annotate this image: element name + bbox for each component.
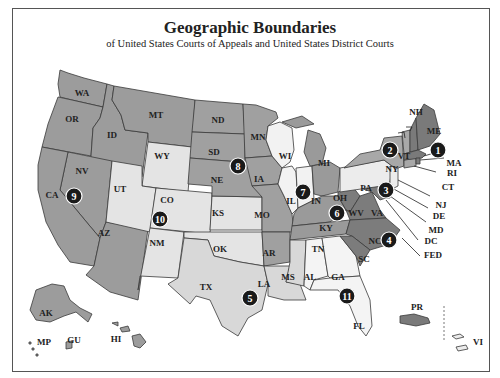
label-gu: GU [67, 335, 81, 345]
label-oh: OH [333, 193, 347, 203]
label-de: DE [433, 211, 446, 221]
label-me: ME [427, 126, 442, 136]
label-mt: MT [149, 110, 164, 120]
label-ok: OK [213, 244, 227, 254]
label-nj: NJ [436, 200, 447, 210]
label-dc: DC [425, 236, 438, 246]
label-tn: TN [312, 244, 325, 254]
label-tx: TX [200, 282, 213, 292]
circuit-badge-4[interactable]: 4 [381, 232, 397, 248]
svg-text:11: 11 [342, 291, 351, 302]
label-nc: NC [369, 236, 382, 246]
label-ut: UT [114, 184, 127, 194]
label-hi: HI [111, 334, 122, 344]
label-vi: VI [473, 337, 483, 347]
circuit-badge-1[interactable]: 1 [430, 142, 446, 158]
label-la: LA [258, 279, 271, 289]
label-mn: MN [251, 132, 266, 142]
territory-pr[interactable] [400, 314, 430, 326]
svg-text:2: 2 [388, 145, 393, 156]
label-az: AZ [98, 228, 111, 238]
svg-text:8: 8 [236, 161, 241, 172]
circuit-badge-5[interactable]: 5 [242, 290, 258, 306]
svg-text:6: 6 [335, 208, 340, 219]
label-vt: VT [398, 151, 411, 161]
circuit-badge-11[interactable]: 11 [339, 288, 355, 304]
svg-text:4: 4 [387, 235, 392, 246]
svg-text:3: 3 [384, 185, 389, 196]
label-ak: AK [39, 308, 53, 318]
svg-text:1: 1 [436, 145, 441, 156]
label-or: OR [65, 114, 79, 124]
svg-text:5: 5 [248, 293, 253, 304]
label-pa: PA [360, 183, 372, 193]
circuit-badge-9[interactable]: 9 [66, 188, 82, 204]
circuit-badge-8[interactable]: 8 [230, 158, 246, 174]
circuit-badge-3[interactable]: 3 [378, 182, 394, 198]
label-ct: CT [442, 182, 455, 192]
label-wa: WA [75, 88, 90, 98]
label-co: CO [160, 195, 174, 205]
label-ky: KY [319, 223, 333, 233]
label-ar: AR [263, 248, 276, 258]
circuit-badge-2[interactable]: 2 [382, 142, 398, 158]
label-id: ID [107, 130, 118, 140]
circuit-badge-6[interactable]: 6 [329, 205, 345, 221]
label-nh: NH [409, 107, 423, 117]
label-ny: NY [386, 164, 399, 174]
label-ks: KS [212, 208, 224, 218]
label-md: MD [429, 225, 444, 235]
label-ma: MA [447, 158, 462, 168]
state-ri[interactable] [416, 158, 420, 164]
label-il: IL [286, 196, 296, 206]
label-in: IN [311, 196, 322, 206]
svg-text:9: 9 [72, 191, 77, 202]
us-circuit-map: WA OR ID MT NV CA AZ AK HI GU MP WY UT C… [0, 0, 500, 378]
label-ms: MS [281, 272, 295, 282]
label-mp: MP [37, 337, 51, 347]
label-fed: FED [424, 250, 443, 260]
label-wv: WV [348, 208, 364, 218]
label-wy: WY [154, 151, 170, 161]
label-va: VA [371, 208, 383, 218]
label-fl: FL [353, 321, 365, 331]
label-mo: MO [254, 210, 270, 220]
label-sc: SC [358, 254, 370, 264]
label-wi: WI [279, 151, 292, 161]
label-ri: RI [447, 168, 457, 178]
label-ia: IA [254, 174, 265, 184]
label-al: AL [304, 272, 317, 282]
svg-text:10: 10 [155, 214, 165, 225]
label-nd: ND [212, 115, 225, 125]
territory-vi[interactable] [452, 334, 468, 351]
label-pr: PR [411, 302, 423, 312]
label-ga: GA [331, 272, 345, 282]
svg-text:7: 7 [301, 187, 306, 198]
label-sd: SD [208, 147, 220, 157]
state-wy[interactable] [142, 142, 192, 192]
circuit-badge-7[interactable]: 7 [295, 184, 311, 200]
label-mi: MI [318, 158, 330, 168]
label-ne: NE [211, 175, 224, 185]
label-nm: NM [150, 238, 165, 248]
circuit-badge-10[interactable]: 10 [152, 211, 168, 227]
label-ca: CA [46, 190, 59, 200]
label-nv: NV [76, 166, 89, 176]
